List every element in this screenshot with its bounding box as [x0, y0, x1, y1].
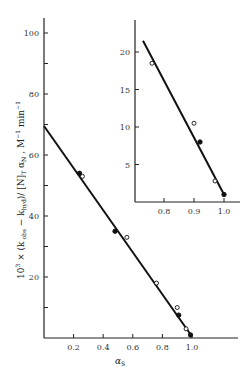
x-axis-label: αS — [115, 356, 125, 367]
filled-data-point — [222, 192, 226, 196]
x-tick-label: 0.8 — [158, 207, 171, 216]
main-plot: 204060801000.20.40.60.81.0 — [24, 18, 238, 352]
filled-data-point — [198, 140, 202, 144]
fit-line — [44, 126, 192, 336]
open-data-point — [175, 306, 179, 310]
x-tick-label: 0.8 — [156, 343, 169, 352]
y-tick-label: 20 — [29, 273, 39, 282]
open-data-point — [192, 121, 196, 125]
x-tick-label: 1.0 — [186, 343, 199, 352]
filled-data-point — [113, 229, 117, 233]
y-tick-label: 60 — [29, 151, 39, 160]
x-tick-label: 0.6 — [126, 343, 139, 352]
fit-line — [143, 41, 224, 195]
y-axis-label: 103 × (k obs − khyd)/ [N]T αN , M−1 min−… — [14, 101, 28, 279]
x-tick-label: 0.4 — [97, 343, 110, 352]
y-tick-label: 100 — [24, 29, 39, 38]
filled-data-point — [176, 313, 180, 317]
y-tick-label: 20 — [120, 48, 130, 57]
y-tick-label: 40 — [29, 212, 39, 221]
x-tick-label: 0.9 — [188, 207, 201, 216]
open-data-point — [125, 235, 129, 239]
open-data-point — [184, 327, 188, 331]
y-tick-label: 80 — [29, 90, 39, 99]
axis-labels: 103 × (k obs − khyd)/ [N]T αN , M−1 min−… — [14, 101, 125, 367]
filled-data-point — [188, 333, 192, 337]
y-tick-label: 10 — [120, 123, 130, 132]
filled-data-point — [77, 171, 81, 175]
open-data-point — [154, 281, 158, 285]
x-tick-label: 1.0 — [218, 207, 231, 216]
y-tick-label: 15 — [120, 86, 130, 95]
x-tick-label: 0.2 — [67, 343, 80, 352]
y-tick-label: 5 — [125, 161, 130, 170]
inset-plot: 51015200.80.91.0 — [120, 20, 240, 216]
open-data-point — [150, 61, 154, 65]
open-data-point — [213, 179, 217, 183]
chart: 204060801000.20.40.60.81.0 51015200.80.9… — [0, 0, 252, 377]
